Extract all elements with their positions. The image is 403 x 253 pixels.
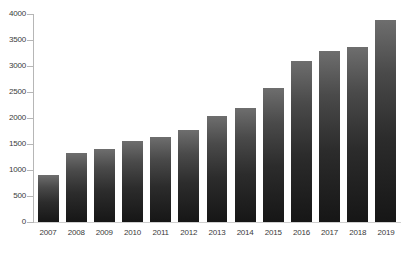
bar-slot — [38, 14, 59, 222]
bar — [235, 108, 256, 222]
bar-slot — [375, 14, 396, 222]
bar-slot — [291, 14, 312, 222]
y-axis-tick-label: 0 — [0, 218, 26, 226]
bar-chart: 05001000150020002500300035004000 2007200… — [0, 0, 403, 253]
y-axis-tick — [27, 196, 34, 197]
y-axis-tick — [27, 14, 34, 15]
x-axis-tick-label: 2019 — [372, 228, 400, 238]
bar-slot — [319, 14, 340, 222]
bar — [207, 116, 228, 222]
bar — [291, 61, 312, 222]
y-axis-tick-label-wrap: 2500 — [0, 88, 26, 96]
bar-slot — [66, 14, 87, 222]
bar — [122, 141, 143, 222]
y-axis-tick-label: 2500 — [0, 88, 26, 96]
bar-series — [34, 14, 400, 222]
bar — [38, 175, 59, 222]
bar — [150, 137, 171, 222]
y-axis-tick-label-wrap: 3500 — [0, 36, 26, 44]
bar — [375, 20, 396, 222]
x-axis-tick-label: 2011 — [147, 228, 175, 238]
y-axis-tick-label: 1000 — [0, 166, 26, 174]
bar — [94, 149, 115, 222]
bar-slot — [178, 14, 199, 222]
x-axis-tick-label: 2008 — [62, 228, 90, 238]
y-axis-tick — [27, 170, 34, 171]
bar-slot — [94, 14, 115, 222]
x-axis-tick-label: 2012 — [175, 228, 203, 238]
x-axis-tick-label: 2014 — [231, 228, 259, 238]
y-axis-tick — [27, 92, 34, 93]
bar — [66, 153, 87, 222]
bar-slot — [122, 14, 143, 222]
y-axis-tick-label-wrap: 1000 — [0, 166, 26, 174]
bar-slot — [150, 14, 171, 222]
bar-slot — [347, 14, 368, 222]
x-axis-tick-label: 2017 — [316, 228, 344, 238]
x-axis-labels: 2007200820092010201120122013201420152016… — [34, 228, 400, 242]
y-axis-tick-label-wrap: 4000 — [0, 10, 26, 18]
x-axis-tick-label: 2013 — [203, 228, 231, 238]
bar — [347, 47, 368, 222]
y-axis-tick — [27, 40, 34, 41]
y-axis-tick-label: 4000 — [0, 10, 26, 18]
x-axis-tick-label: 2007 — [34, 228, 62, 238]
y-axis-tick-label: 1500 — [0, 140, 26, 148]
bar — [319, 51, 340, 222]
y-axis-tick — [27, 144, 34, 145]
x-axis-tick-label: 2010 — [118, 228, 146, 238]
y-axis-tick-label: 3000 — [0, 62, 26, 70]
y-axis-tick-label-wrap: 0 — [0, 218, 26, 226]
x-axis-tick-label: 2018 — [344, 228, 372, 238]
x-axis-tick-label: 2016 — [287, 228, 315, 238]
x-axis-tick-label: 2015 — [259, 228, 287, 238]
bar — [263, 88, 284, 222]
bar-slot — [263, 14, 284, 222]
y-axis-tick-label: 500 — [0, 192, 26, 200]
y-axis-tick-label-wrap: 500 — [0, 192, 26, 200]
y-axis-tick-label: 2000 — [0, 114, 26, 122]
y-axis-tick — [27, 222, 34, 223]
x-axis-baseline — [27, 222, 401, 223]
bar-slot — [207, 14, 228, 222]
bar-slot — [235, 14, 256, 222]
y-axis-tick-label: 3500 — [0, 36, 26, 44]
y-axis-tick — [27, 66, 34, 67]
y-axis-tick-label-wrap: 1500 — [0, 140, 26, 148]
y-axis-tick-label-wrap: 3000 — [0, 62, 26, 70]
bar — [178, 130, 199, 222]
x-axis-tick-label: 2009 — [90, 228, 118, 238]
y-axis-tick — [27, 118, 34, 119]
y-axis-tick-label-wrap: 2000 — [0, 114, 26, 122]
